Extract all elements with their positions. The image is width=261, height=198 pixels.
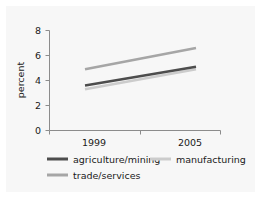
line-chart: 8 6 4 2 0 percent 1999 2005 agriculture/… xyxy=(0,0,261,198)
x-axis-ticks xyxy=(50,131,221,135)
y-axis-title: percent xyxy=(15,62,26,99)
legend-item-agriculture-mining[interactable]: agriculture/mining xyxy=(47,154,160,165)
chart-legend: agriculture/mining manufacturing trade/s… xyxy=(47,154,246,181)
x-tick-label-1999: 1999 xyxy=(82,137,106,148)
chart-figure: 8 6 4 2 0 percent 1999 2005 agriculture/… xyxy=(0,0,261,198)
y-tick-label-6: 6 xyxy=(35,50,41,61)
y-tick-label-8: 8 xyxy=(35,25,41,36)
y-tick-label-2: 2 xyxy=(35,100,41,111)
y-tick-label-0: 0 xyxy=(35,125,41,136)
x-tick-label-2005: 2005 xyxy=(178,137,202,148)
legend-item-trade-services[interactable]: trade/services xyxy=(47,170,141,181)
series-line-trade-services xyxy=(85,48,196,69)
legend-label-manufacturing: manufacturing xyxy=(176,154,246,165)
series-line-manufacturing xyxy=(85,69,196,89)
legend-item-manufacturing[interactable]: manufacturing xyxy=(150,154,246,165)
legend-label-agriculture-mining: agriculture/mining xyxy=(73,154,160,165)
y-axis-ticks xyxy=(46,31,50,131)
series-line-agriculture-mining xyxy=(85,67,196,86)
legend-label-trade-services: trade/services xyxy=(73,170,141,181)
y-tick-label-4: 4 xyxy=(35,75,41,86)
series-lines xyxy=(85,48,196,89)
